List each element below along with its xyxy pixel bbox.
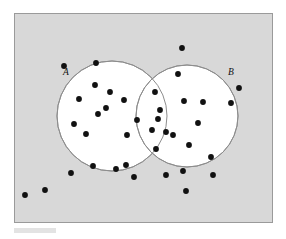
set-label-B: B xyxy=(228,67,234,77)
element-dot-outside-7 xyxy=(183,188,189,194)
element-dot-only_b-31 xyxy=(163,129,169,135)
element-dot-only_a-13 xyxy=(76,96,82,102)
element-dot-only_b-27 xyxy=(170,132,176,138)
element-dot-only_a-12 xyxy=(107,89,113,95)
element-dot-outside-5 xyxy=(68,170,74,176)
element-dot-only_a-17 xyxy=(83,131,89,137)
element-dot-only_a-18 xyxy=(124,132,130,138)
element-dot-only_a-21 xyxy=(113,166,119,172)
element-dot-outside-9 xyxy=(22,192,28,198)
element-dot-intersection-34 xyxy=(152,89,158,95)
element-dot-only_b-32 xyxy=(157,107,163,113)
element-dot-only_b-25 xyxy=(200,99,206,105)
element-dot-only_a-15 xyxy=(95,111,101,117)
caption-bar xyxy=(14,228,56,233)
element-dot-only_b-30 xyxy=(180,168,186,174)
element-dot-outside-6 xyxy=(131,174,137,180)
set-circle-B[interactable] xyxy=(136,65,238,167)
venn-diagram-canvas: AB xyxy=(0,0,286,239)
element-dot-outside-3 xyxy=(236,85,242,91)
element-dot-only_b-23 xyxy=(175,71,181,77)
element-dot-only_a-16 xyxy=(71,121,77,127)
element-dot-only_a-14 xyxy=(121,97,127,103)
element-dot-only_b-29 xyxy=(208,154,214,160)
element-dot-outside-1 xyxy=(93,60,99,66)
element-dot-outside-0 xyxy=(61,63,67,69)
element-dot-intersection-36 xyxy=(155,116,161,122)
element-dot-only_b-28 xyxy=(186,142,192,148)
element-dot-only_a-22 xyxy=(103,105,109,111)
element-dot-outside-2 xyxy=(179,45,185,51)
element-dot-only_b-24 xyxy=(181,98,187,104)
element-dot-only_b-26 xyxy=(228,100,234,106)
element-dot-intersection-35 xyxy=(134,117,140,123)
element-dot-intersection-38 xyxy=(153,146,159,152)
element-dot-only_b-33 xyxy=(195,120,201,126)
element-dot-intersection-37 xyxy=(149,127,155,133)
venn-figure: AB xyxy=(0,0,286,239)
element-dot-only_a-20 xyxy=(123,162,129,168)
element-dot-outside-10 xyxy=(163,172,169,178)
element-dot-only_a-11 xyxy=(92,82,98,88)
element-dot-outside-8 xyxy=(210,172,216,178)
element-dot-only_a-19 xyxy=(90,163,96,169)
element-dot-outside-4 xyxy=(42,187,48,193)
